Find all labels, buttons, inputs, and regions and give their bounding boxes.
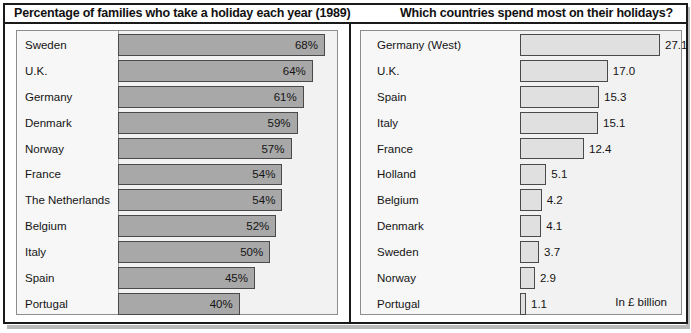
chart-row: Portugal40% xyxy=(17,291,337,317)
right-chart-title: Which countries spend most on their holi… xyxy=(400,6,673,20)
chart-row: Denmark59% xyxy=(17,110,337,136)
category-label: Norway xyxy=(25,136,64,162)
panel-divider xyxy=(349,24,351,324)
bar-value-label: 17.0 xyxy=(613,58,635,84)
category-label: Holland xyxy=(377,162,416,188)
bar xyxy=(520,189,542,211)
bar-value-label: 61% xyxy=(274,84,297,110)
category-label: U.K. xyxy=(25,58,47,84)
bar-value-label: 50% xyxy=(240,239,263,265)
chart-row: Italy15.1 xyxy=(361,110,681,136)
chart-row: Italy50% xyxy=(17,239,337,265)
chart-row: The Netherlands54% xyxy=(17,187,337,213)
chart-row: Spain15.3 xyxy=(361,84,681,110)
category-label: Belgium xyxy=(25,213,67,239)
chart-row: Belgium52% xyxy=(17,213,337,239)
bar xyxy=(520,86,599,108)
category-label: U.K. xyxy=(377,58,399,84)
left-chart-rows: Sweden68%U.K.64%Germany61%Denmark59%Norw… xyxy=(17,31,337,314)
category-label: Norway xyxy=(377,265,416,291)
bar xyxy=(520,112,598,134)
category-label: Germany (West) xyxy=(377,32,461,58)
bar xyxy=(520,241,539,263)
chart-row: France54% xyxy=(17,162,337,188)
bar xyxy=(520,164,546,186)
left-chart-title: Percentage of families who take a holida… xyxy=(14,6,350,20)
chart-row: Belgium4.2 xyxy=(361,187,681,213)
chart-row: Spain45% xyxy=(17,265,337,291)
chart-row: Sweden68% xyxy=(17,32,337,58)
category-label: Germany xyxy=(25,84,72,110)
chart-row: Germany (West)27.1 xyxy=(361,32,681,58)
category-label: Denmark xyxy=(25,110,72,136)
bar xyxy=(520,267,535,289)
bar-value-label: 57% xyxy=(261,136,284,162)
category-label: Spain xyxy=(25,265,54,291)
chart-row: Norway2.9 xyxy=(361,265,681,291)
bar-value-label: 59% xyxy=(268,110,291,136)
category-label: Portugal xyxy=(377,291,420,317)
bar-value-label: 1.1 xyxy=(531,291,547,317)
category-label: Portugal xyxy=(25,291,68,317)
bar xyxy=(520,34,660,56)
chart-row: Germany61% xyxy=(17,84,337,110)
bar xyxy=(520,60,608,82)
category-label: France xyxy=(25,162,61,188)
chart-row: Norway57% xyxy=(17,136,337,162)
right-chart-rows: Germany (West)27.1U.K.17.0Spain15.3Italy… xyxy=(361,31,681,314)
bar-value-label: 64% xyxy=(283,58,306,84)
bar-value-label: 2.9 xyxy=(540,265,556,291)
bar-value-label: 5.1 xyxy=(551,162,567,188)
category-label: Belgium xyxy=(377,187,419,213)
right-chart-panel: Germany (West)27.1U.K.17.0Spain15.3Italy… xyxy=(360,30,682,315)
chart-row: Sweden3.7 xyxy=(361,239,681,265)
category-label: Spain xyxy=(377,84,406,110)
bar xyxy=(520,293,526,315)
chart-row: U.K.64% xyxy=(17,58,337,84)
bar-value-label: 12.4 xyxy=(589,136,611,162)
figure-frame: Percentage of families who take a holida… xyxy=(3,3,688,324)
bar-value-label: 54% xyxy=(252,187,275,213)
figure-shadow-bottom xyxy=(7,325,690,329)
bar-value-label: 68% xyxy=(295,32,318,58)
category-label: Denmark xyxy=(377,213,424,239)
chart-row: Holland5.1 xyxy=(361,162,681,188)
bar-value-label: 54% xyxy=(252,162,275,188)
category-label: Italy xyxy=(377,110,398,136)
category-label: France xyxy=(377,136,413,162)
bar-value-label: 4.1 xyxy=(546,213,562,239)
bar-value-label: 3.7 xyxy=(544,239,560,265)
bar xyxy=(520,138,584,160)
bar xyxy=(520,215,541,237)
right-chart-unit-note: In £ billion xyxy=(615,296,667,308)
bar-value-label: 45% xyxy=(225,265,248,291)
title-band: Percentage of families who take a holida… xyxy=(5,5,686,24)
category-label: The Netherlands xyxy=(25,187,110,213)
chart-row: France12.4 xyxy=(361,136,681,162)
bar-value-label: 4.2 xyxy=(547,187,563,213)
chart-row: U.K.17.0 xyxy=(361,58,681,84)
bar xyxy=(118,34,325,56)
category-label: Sweden xyxy=(377,239,419,265)
bar-value-label: 15.1 xyxy=(603,110,625,136)
category-label: Italy xyxy=(25,239,46,265)
chart-row: Denmark4.1 xyxy=(361,213,681,239)
bar-value-label: 40% xyxy=(210,291,233,317)
bar-value-label: 15.3 xyxy=(604,84,626,110)
bar-value-label: 27.1 xyxy=(665,32,687,58)
bar-value-label: 52% xyxy=(246,213,269,239)
chart-figure: Percentage of families who take a holida… xyxy=(0,0,691,333)
left-chart-panel: Sweden68%U.K.64%Germany61%Denmark59%Norw… xyxy=(16,30,338,315)
category-label: Sweden xyxy=(25,32,67,58)
